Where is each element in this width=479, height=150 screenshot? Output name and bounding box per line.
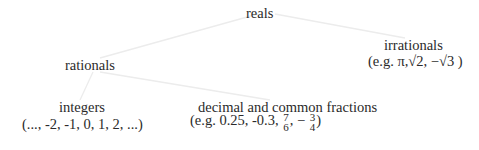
- frac2-denominator: 4: [310, 122, 316, 132]
- edge-rationals-integers: [80, 72, 93, 100]
- irrationals-examples-text: (e.g. π,√2, −√3 ): [368, 53, 463, 69]
- fraction-3-4: 34: [310, 112, 316, 132]
- edge-reals-rationals: [100, 14, 258, 58]
- node-rationals: rationals: [65, 57, 115, 74]
- edge-reals-irrationals: [275, 14, 405, 38]
- edge-rationals-fractions: [100, 72, 270, 100]
- node-reals-label: reals: [246, 5, 273, 21]
- node-integers: integers (..., -2, -1, 0, 1, 2, ...): [22, 99, 142, 133]
- node-irrationals-examples: (e.g. π,√2, −√3 ): [368, 53, 463, 70]
- node-reals: reals: [246, 5, 273, 22]
- node-irrationals-label: irrationals: [384, 37, 443, 54]
- frac1-denominator: 6: [283, 122, 289, 132]
- fractions-examples-suffix: ): [316, 112, 321, 128]
- integers-examples: (..., -2, -1, 0, 1, 2, ...): [22, 116, 142, 133]
- node-fractions-examples: (e.g. 0.25, -0.3, 76, − 34): [190, 112, 321, 132]
- fractions-sep: , −: [290, 112, 309, 128]
- fractions-examples-prefix: (e.g. 0.25, -0.3,: [190, 112, 282, 128]
- node-irrationals: irrationals: [384, 37, 443, 54]
- node-rationals-label: rationals: [65, 57, 115, 73]
- fraction-7-6: 76: [283, 112, 289, 132]
- node-integers-label: integers: [22, 99, 142, 116]
